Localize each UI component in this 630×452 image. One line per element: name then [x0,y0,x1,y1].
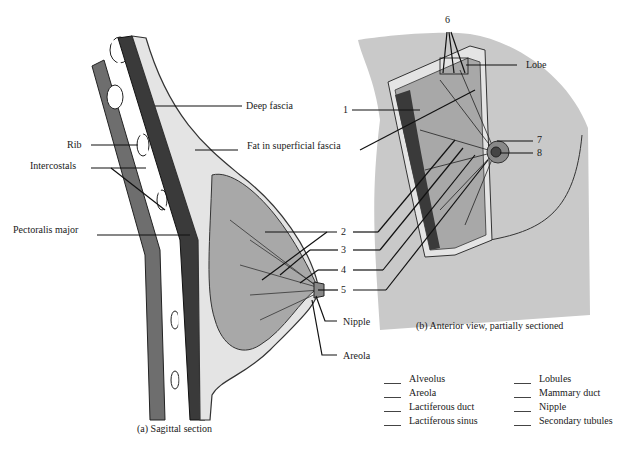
word-bank-item[interactable]: Secondary tubules [514,415,630,426]
label-areola: Areola [343,350,370,362]
label-pectoralis-major: Pectoralis major [13,224,78,236]
number-5: 5 [341,284,346,296]
word-bank: Alveolus Lobules Areola Mammary duct Lac… [384,373,630,426]
answer-blank[interactable] [514,374,531,384]
anterior-view-drawing [358,33,590,330]
answer-blank[interactable] [384,374,401,384]
word-bank-item[interactable]: Mammary duct [514,387,630,398]
number-3: 3 [341,244,346,256]
word-bank-item[interactable]: Lobules [514,373,630,384]
number-7: 7 [537,134,542,146]
label-deep-fascia: Deep fascia [246,100,293,112]
answer-blank[interactable] [514,416,531,426]
label-intercostals: Intercostals [30,160,76,172]
word-bank-item[interactable]: Alveolus [384,373,514,384]
sagittal-section-drawing [92,36,324,420]
answer-blank[interactable] [384,416,401,426]
caption-anterior: (b) Anterior view, partially sectioned [416,320,563,331]
label-fat-superficial-fascia: Fat in superficial fascia [247,140,341,152]
answer-blank[interactable] [514,388,531,398]
word-bank-item[interactable]: Lactiferous sinus [384,415,514,426]
word-bank-item[interactable]: Areola [384,387,514,398]
label-nipple: Nipple [343,316,370,328]
caption-sagittal: (a) Sagittal section [137,423,212,434]
number-2: 2 [341,226,346,238]
answer-blank[interactable] [384,402,401,412]
number-8: 8 [537,147,542,159]
answer-blank[interactable] [384,388,401,398]
word-bank-item[interactable]: Nipple [514,401,630,412]
label-rib: Rib [67,139,81,151]
number-1: 1 [343,104,348,116]
label-lobe: Lobe [526,59,547,71]
number-4: 4 [341,264,346,276]
answer-blank[interactable] [514,402,531,412]
number-6: 6 [445,14,450,26]
word-bank-item[interactable]: Lactiferous duct [384,401,514,412]
